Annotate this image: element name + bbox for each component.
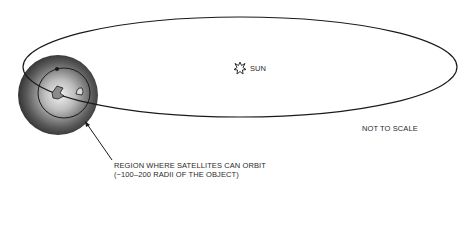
not-to-scale-note: NOT TO SCALE (362, 124, 418, 133)
sun-icon (234, 62, 246, 74)
sun-label: SUN (250, 64, 266, 73)
region-pointer-line (87, 124, 112, 160)
region-label-line1: REGION WHERE SATELLITES CAN ORBIT (114, 161, 266, 170)
satellite-dot (55, 67, 59, 71)
region-label-line2: (~100–200 RADII OF THE OBJECT) (114, 170, 239, 179)
